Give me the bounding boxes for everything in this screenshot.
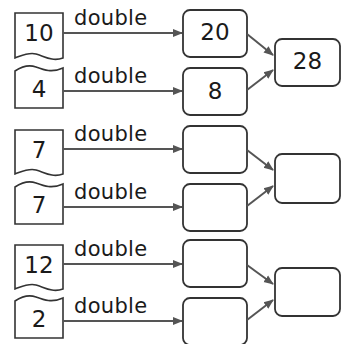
sum-arrow-2a <box>247 150 273 170</box>
doubled-box-2a[interactable] <box>183 126 247 173</box>
sum-arrow-3b <box>247 300 273 320</box>
sum-arrow-3a <box>247 265 273 284</box>
doubled-box-3a[interactable] <box>183 240 247 287</box>
doubled-value-1a: 20 <box>183 21 247 44</box>
doubled-value-1b: 8 <box>183 80 247 103</box>
double-label-2a: double <box>74 124 147 145</box>
input-value-1a: 10 <box>15 22 63 45</box>
doubled-box-2b[interactable] <box>183 184 247 231</box>
double-label-3a: double <box>74 239 147 260</box>
input-value-3b: 2 <box>15 308 63 331</box>
sum-arrow-1b <box>247 70 273 90</box>
sum-box-2[interactable] <box>275 154 340 203</box>
input-value-2b: 7 <box>15 194 63 217</box>
double-label-3b: double <box>74 296 147 317</box>
group-3 <box>15 240 340 344</box>
sum-arrow-1a <box>247 34 273 55</box>
sum-box-3[interactable] <box>275 268 340 316</box>
double-label-2b: double <box>74 182 147 203</box>
doubled-box-3b[interactable] <box>183 298 247 344</box>
double-label-1a: double <box>74 8 147 29</box>
input-value-3a: 12 <box>15 254 63 277</box>
group-2 <box>15 126 340 231</box>
double-label-1b: double <box>74 66 147 87</box>
input-value-1b: 4 <box>15 78 63 101</box>
sum-value-1: 28 <box>275 50 340 73</box>
input-value-2a: 7 <box>15 139 63 162</box>
sum-arrow-2b <box>247 186 273 206</box>
